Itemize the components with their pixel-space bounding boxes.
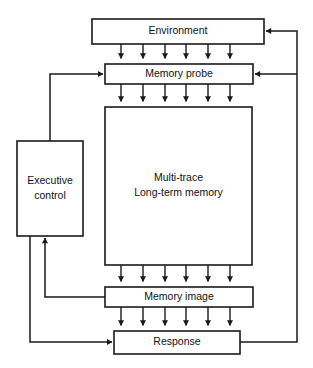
node-response[interactable]: Response <box>114 331 240 354</box>
node-executive-control[interactable]: Executivecontrol <box>17 141 83 236</box>
node-memory-probe-label: Memory probe <box>145 67 213 79</box>
node-layer: EnvironmentMemory probeMulti-traceLong-t… <box>17 19 264 354</box>
bus-environment-to-memory-probe <box>121 44 230 59</box>
bus-memory-probe-to-long-term-memory <box>121 84 230 102</box>
memory-model-diagram: EnvironmentMemory probeMulti-traceLong-t… <box>0 0 313 368</box>
bus-memory-image-to-response <box>121 307 230 326</box>
node-long-term-memory-label: Multi-trace <box>154 171 203 183</box>
edge-executive-control-to-memory-probe <box>50 74 103 141</box>
diagram-canvas: EnvironmentMemory probeMulti-traceLong-t… <box>0 0 313 368</box>
node-executive-control-label: control <box>34 189 66 201</box>
node-executive-control-label: Executive <box>27 174 73 186</box>
edge-executive-control-to-response <box>30 236 112 342</box>
edge-memory-image-to-executive-control <box>45 238 105 297</box>
node-long-term-memory[interactable]: Multi-traceLong-term memory <box>105 107 252 265</box>
node-memory-image[interactable]: Memory image <box>105 287 253 307</box>
node-environment[interactable]: Environment <box>92 19 264 44</box>
node-long-term-memory-label: Long-term memory <box>134 186 223 198</box>
node-memory-image-label: Memory image <box>144 290 214 302</box>
node-response-label: Response <box>153 335 200 347</box>
bus-long-term-memory-to-memory-image <box>121 265 230 282</box>
node-environment-label: Environment <box>149 24 208 36</box>
node-memory-probe[interactable]: Memory probe <box>105 64 253 84</box>
